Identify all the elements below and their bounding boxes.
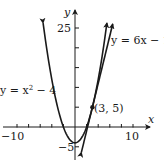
y-axis-label: y [63,6,71,19]
x-tick-label-10: 10 [125,130,139,143]
y-tick-label-25: 25 [57,22,71,35]
parabola-eq-suffix: − 4 [33,84,56,97]
point-label: (3, 5) [94,102,124,115]
graph-plot: y x 25 −5 −10 10 y = x2 − 4 y = 6x − 13 … [0,0,164,161]
y-ticks [75,28,79,147]
parabola-eq-prefix: y = x [0,84,29,97]
tangent-line [81,24,112,152]
parabola-equation-label: y = x2 − 4 [0,84,56,97]
x-axis-label: x [148,113,155,126]
y-tick-label-neg5: −5 [58,141,74,154]
line-equation-label: y = 6x − 13 [110,34,164,47]
x-tick-label-neg10: −10 [1,130,24,143]
